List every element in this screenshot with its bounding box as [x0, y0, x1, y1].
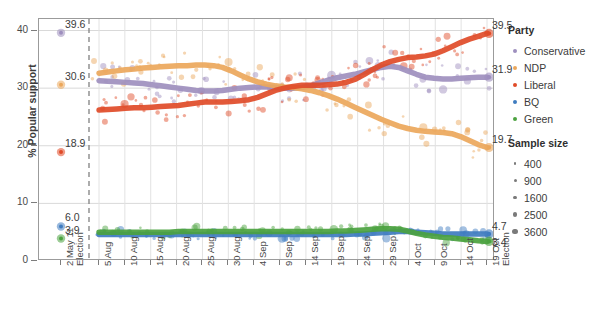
legend-color-swatch	[508, 117, 522, 121]
y-tick-label: 40	[0, 24, 28, 35]
legend-size-row[interactable]: 400	[508, 155, 594, 172]
x-tick-mark	[383, 260, 384, 265]
x-tick-mark	[305, 260, 306, 265]
legend-size-swatch	[508, 179, 522, 182]
legend-size-label: 900	[524, 175, 542, 187]
legend-party-row[interactable]: Conservative	[508, 42, 594, 59]
x-tick-mark	[201, 260, 202, 265]
x-tick-label: 4 Sep	[257, 241, 268, 266]
legend-size-dot-icon	[514, 162, 516, 164]
x-tick-mark	[434, 260, 435, 265]
legend-size-row[interactable]: 1600	[508, 189, 594, 206]
legend-size-row[interactable]: 3600	[508, 223, 594, 240]
x-tick-label: 19 Sep	[335, 236, 346, 266]
right-endpoint-label: 4.7	[492, 220, 507, 232]
left-endpoint-label: 39.6	[65, 18, 85, 30]
left-endpoint-label: 30.6	[65, 70, 85, 82]
y-axis-ticks: 010203040	[0, 0, 38, 262]
legend-party-label: Liberal	[524, 79, 556, 91]
y-tick-label: 10	[0, 196, 28, 207]
x-tick-mark	[279, 260, 280, 265]
legend-size-swatch	[508, 229, 522, 234]
legend-size-label: 3600	[524, 226, 547, 238]
chart-root: % Popular support 010203040 2 May 11Elec…	[0, 0, 596, 317]
x-tick-mark	[150, 260, 151, 265]
legend-color-swatch	[508, 100, 522, 104]
legend-dot-icon	[513, 117, 517, 121]
left-endpoint-label: 18.9	[65, 137, 85, 149]
x-tick-label: 14 Oct	[464, 238, 475, 266]
x-tick-label: 25 Aug	[205, 236, 216, 266]
x-tick-label: 30 Aug	[231, 236, 242, 266]
y-tick-mark	[31, 30, 37, 31]
legend-size-list: 400900160025003600	[508, 155, 594, 240]
legend-party-label: Green	[524, 113, 553, 125]
x-tick-label: 29 Sep	[387, 236, 398, 266]
chart-legend: Party ConservativeNDPLiberalBQGreen Samp…	[508, 24, 594, 240]
legend-size-label: 1600	[524, 192, 547, 204]
legend-dot-icon	[513, 49, 517, 53]
legend-size-swatch	[508, 212, 522, 217]
x-tick-mark	[408, 260, 409, 265]
legend-size-swatch	[508, 196, 522, 200]
x-tick-label: 9 Oct	[438, 243, 449, 266]
legend-party-label: BQ	[524, 96, 539, 108]
x-tick-label: 24 Sep	[361, 236, 372, 266]
x-tick-mark	[486, 260, 487, 265]
left-endpoint-label: 3.9	[65, 224, 80, 236]
legend-party-row[interactable]: Green	[508, 110, 594, 127]
y-tick-mark	[31, 202, 37, 203]
x-tick-mark	[331, 260, 332, 265]
legend-color-swatch	[508, 66, 522, 70]
legend-party-row[interactable]: BQ	[508, 93, 594, 110]
x-tick-label: 14 Sep	[309, 236, 320, 266]
y-tick-mark	[31, 145, 37, 146]
legend-dot-icon	[513, 100, 517, 104]
x-tick-mark	[60, 260, 61, 265]
x-tick-mark	[357, 260, 358, 265]
x-tick-label: 20 Aug	[180, 236, 191, 266]
x-tick-mark	[176, 260, 177, 265]
x-tick-label: 4 Oct	[412, 243, 423, 266]
plot-area	[38, 18, 494, 260]
y-tick-label: 20	[0, 139, 28, 150]
right-endpoint-label: 3.4	[492, 236, 507, 248]
x-tick-label: 15 Aug	[154, 236, 165, 266]
legend-party-label: Conservative	[524, 45, 585, 57]
legend-dot-icon	[513, 83, 517, 87]
legend-party-list: ConservativeNDPLiberalBQGreen	[508, 42, 594, 127]
x-tick-mark	[124, 260, 125, 265]
legend-size-dot-icon	[513, 212, 518, 217]
chart-svg	[39, 19, 494, 260]
x-tick-label: 5 Aug	[102, 242, 113, 266]
x-tick-label: 10 Aug	[128, 236, 139, 266]
legend-color-swatch	[508, 83, 522, 87]
legend-size-swatch	[508, 162, 522, 164]
y-tick-mark	[31, 87, 37, 88]
x-tick-label: 9 Sep	[283, 241, 294, 266]
y-tick-label: 0	[0, 254, 28, 265]
x-tick-label-second: Election	[74, 232, 85, 266]
left-endpoint-label: 6.0	[65, 211, 80, 223]
legend-size-dot-icon	[514, 179, 517, 182]
legend-sample-title: Sample size	[508, 137, 594, 149]
legend-party-label: NDP	[524, 62, 546, 74]
x-tick-mark	[98, 260, 99, 265]
legend-size-row[interactable]: 2500	[508, 206, 594, 223]
y-tick-mark	[31, 260, 37, 261]
x-tick-mark	[227, 260, 228, 265]
legend-dot-icon	[513, 66, 517, 70]
legend-size-label: 400	[524, 158, 542, 170]
legend-size-row[interactable]: 900	[508, 172, 594, 189]
y-tick-label: 30	[0, 81, 28, 92]
legend-party-title: Party	[508, 24, 594, 36]
legend-size-dot-icon	[512, 229, 517, 234]
legend-party-row[interactable]: Liberal	[508, 76, 594, 93]
x-tick-mark	[253, 260, 254, 265]
legend-party-row[interactable]: NDP	[508, 59, 594, 76]
legend-spacer	[508, 127, 594, 137]
x-tick-mark	[460, 260, 461, 265]
legend-color-swatch	[508, 49, 522, 53]
legend-size-dot-icon	[513, 196, 517, 200]
legend-size-label: 2500	[524, 209, 547, 221]
